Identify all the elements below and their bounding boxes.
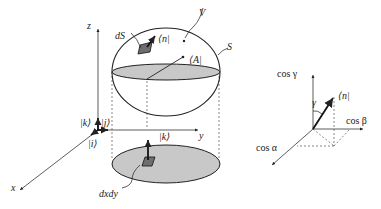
surface-integral-diagram: z y x V S dS ⟨n| ⟨A| |k⟩ |j⟩ |i⟩ |k⟩ dxd…: [0, 0, 381, 209]
gamma-angle-label: γ: [312, 97, 317, 108]
cos-gamma-label: cos γ: [277, 68, 298, 79]
projected-disk: [112, 145, 220, 183]
inset-dash-diagonal: [313, 129, 334, 146]
cos-alpha-axis: [272, 129, 313, 165]
unit-i-label: |i⟩: [88, 138, 98, 149]
vector-field-label: ⟨A|: [189, 54, 202, 65]
ellipsoid-volume: [112, 8, 228, 116]
surface-label: S: [227, 41, 232, 52]
unit-i-arrow: [91, 130, 98, 135]
volume-point: [183, 40, 185, 42]
unit-j-label: |j⟩: [101, 117, 111, 128]
cos-alpha-text: cos α: [256, 142, 278, 153]
volume-label: V: [199, 7, 207, 18]
gamma-angle-arc: [313, 111, 322, 114]
inset-dash-beta: [334, 129, 350, 146]
main-figure: z y x V S dS ⟨n| ⟨A| |k⟩ |j⟩ |i⟩ |k⟩ dxd…: [10, 7, 232, 199]
equatorial-disk: [112, 64, 220, 80]
y-axis-label: y: [198, 130, 204, 141]
normal-vector-label: ⟨n|: [158, 33, 170, 44]
x-axis-label: x: [10, 182, 16, 193]
x-axis: [20, 130, 98, 190]
cos-gamma-text: cos γ: [277, 68, 298, 79]
unit-k-label: |k⟩: [80, 117, 91, 128]
cos-alpha-label: cos α: [256, 142, 278, 153]
cos-beta-text: cos β: [346, 115, 367, 126]
surface-element-label: dS: [115, 30, 125, 41]
vector-a-point: [182, 56, 185, 59]
projected-k-label: |k⟩: [159, 131, 170, 142]
projected-region: [112, 140, 220, 188]
inset-normal-arrow: [313, 98, 333, 129]
inset-normal-label: ⟨n|: [338, 90, 350, 101]
direction-cosines-inset: cos γ cos β cos α γ ⟨n|: [256, 68, 367, 165]
area-element-label: dxdy: [99, 188, 118, 199]
cos-beta-label: cos β: [346, 115, 367, 126]
z-axis-label: z: [86, 20, 91, 31]
